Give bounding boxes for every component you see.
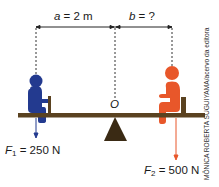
seat-handle-left bbox=[48, 96, 51, 113]
dashed-guides bbox=[36, 28, 172, 100]
seat-handle-right bbox=[181, 97, 186, 113]
force-f2-label: F2 = 500 N bbox=[144, 164, 199, 178]
force-f1-label: F1 = 250 N bbox=[5, 144, 60, 158]
image-credit: MÔNICA ROBERTA SUGUIYAMA/acervo da edito… bbox=[203, 28, 210, 180]
dimension-line bbox=[36, 26, 172, 29]
force-arrow-f1 bbox=[34, 118, 38, 138]
dimension-a-label: a = 2 m bbox=[54, 10, 93, 22]
seesaw-plank bbox=[18, 113, 205, 118]
fulcrum-triangle bbox=[104, 117, 127, 141]
pivot-label: O bbox=[110, 98, 119, 110]
force-arrow-f2 bbox=[174, 118, 178, 160]
dimension-b-label: b = ? bbox=[129, 10, 155, 22]
seesaw-diagram bbox=[0, 0, 219, 187]
